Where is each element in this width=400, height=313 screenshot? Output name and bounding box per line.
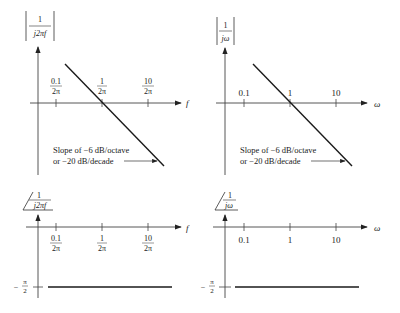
svg-text:2π: 2π bbox=[52, 87, 60, 96]
x-axis-label: ω bbox=[374, 99, 380, 109]
svg-text:1: 1 bbox=[100, 234, 104, 243]
x-axis-label: ω bbox=[374, 223, 380, 233]
phase-plot-f: 1 j2πf f 0.1 2π 1 2π 10 2π − π bbox=[14, 191, 190, 298]
y-axis-label-mag-f: 1 j2πf bbox=[26, 11, 54, 41]
level-label-minus-pi-over-2: − π 2 bbox=[14, 278, 43, 295]
y-axis-label-phase-w: 1 jω bbox=[215, 191, 238, 210]
svg-text:−: − bbox=[201, 283, 206, 292]
svg-text:1: 1 bbox=[100, 77, 104, 86]
slope-note-line2: or −20 dB/decade bbox=[53, 156, 114, 166]
svg-text:1: 1 bbox=[37, 191, 41, 200]
svg-text:2π: 2π bbox=[52, 244, 60, 253]
svg-text:2π: 2π bbox=[144, 244, 152, 253]
svg-text:−: − bbox=[14, 283, 19, 292]
ylabel-numerator: 1 bbox=[38, 15, 42, 24]
svg-text:2π: 2π bbox=[98, 244, 106, 253]
tick-2: 10 bbox=[332, 223, 342, 245]
tick-0: 0.1 bbox=[238, 223, 249, 245]
phase-plot-w: 1 jω ω 0.1 1 10 − π 2 bbox=[201, 191, 381, 298]
y-axis-label-phase-f: 1 j2πf bbox=[23, 191, 53, 210]
slope-note-line2: or −20 dB/decade bbox=[240, 156, 301, 166]
svg-text:1: 1 bbox=[224, 21, 228, 30]
slope-note-line1: Slope of −6 dB/octave bbox=[53, 145, 130, 155]
svg-text:1: 1 bbox=[228, 191, 232, 200]
magnitude-plot-w: 1 jω ω 0.1 1 10 Slope of −6 dB/octave or… bbox=[216, 17, 380, 175]
level-label-minus-pi-over-2: − π 2 bbox=[201, 278, 231, 295]
svg-text:1: 1 bbox=[288, 88, 293, 98]
svg-text:2π: 2π bbox=[144, 87, 152, 96]
svg-text:π: π bbox=[210, 278, 214, 286]
slope-note-line1: Slope of −6 dB/octave bbox=[240, 145, 317, 155]
tick-0: 0.1 2π bbox=[50, 223, 62, 253]
svg-text:1: 1 bbox=[288, 235, 293, 245]
tick-0: 0.1 bbox=[238, 88, 249, 107]
svg-text:π: π bbox=[23, 278, 27, 286]
svg-text:10: 10 bbox=[332, 235, 342, 245]
tick-0: 0.1 2π bbox=[50, 77, 62, 107]
tick-2: 10 bbox=[332, 88, 342, 107]
bode-diagram: 1 j2πf f 0.1 2π 1 2π 10 2π Slope of −6 d… bbox=[0, 0, 400, 313]
x-axis-label: f bbox=[186, 223, 190, 233]
svg-text:0.1: 0.1 bbox=[51, 77, 61, 86]
svg-text:0.1: 0.1 bbox=[51, 234, 61, 243]
svg-text:jω: jω bbox=[224, 201, 233, 210]
svg-text:10: 10 bbox=[144, 77, 152, 86]
svg-text:0.1: 0.1 bbox=[238, 235, 249, 245]
ylabel-denominator: j2πf bbox=[33, 29, 48, 38]
tick-1: 1 bbox=[288, 223, 293, 245]
svg-text:10: 10 bbox=[144, 234, 152, 243]
svg-text:2π: 2π bbox=[98, 87, 106, 96]
svg-text:j2πf: j2πf bbox=[33, 201, 48, 210]
tick-1: 1 2π bbox=[97, 223, 107, 253]
svg-text:2: 2 bbox=[210, 287, 214, 295]
magnitude-plot-f: 1 j2πf f 0.1 2π 1 2π 10 2π Slope of −6 d… bbox=[26, 11, 190, 175]
x-axis-label: f bbox=[186, 98, 190, 108]
y-axis-label-mag-w: 1 jω bbox=[217, 17, 234, 45]
svg-text:2: 2 bbox=[23, 287, 27, 295]
tick-2: 10 2π bbox=[142, 223, 154, 253]
svg-text:jω: jω bbox=[221, 34, 230, 43]
tick-2: 10 2π bbox=[142, 77, 154, 107]
svg-text:10: 10 bbox=[332, 88, 342, 98]
svg-text:0.1: 0.1 bbox=[238, 88, 249, 98]
